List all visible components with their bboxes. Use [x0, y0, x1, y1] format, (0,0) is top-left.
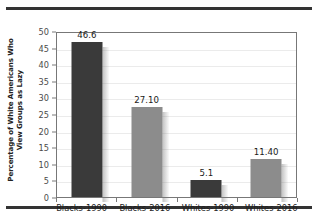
x-axis-tick-mark — [56, 198, 57, 202]
bar-group: 46.6 — [57, 33, 117, 197]
bar-group: 27.10 — [117, 33, 177, 197]
y-axis-tick-label: 35 — [39, 77, 49, 87]
y-axis-title: Percentage of White Americans Who View G… — [2, 26, 28, 194]
x-axis-tick-label: Whites-1990 — [177, 203, 240, 213]
x-axis-tick-label: Whites-2016 — [240, 203, 303, 213]
y-axis-tick-label: 10 — [39, 160, 49, 170]
y-axis-tick-label: 20 — [39, 127, 49, 137]
bar-value-label: 5.1 — [200, 168, 214, 178]
x-axis-tick-label: Blacks-1990 — [50, 203, 113, 213]
x-axis-tick-labels: Blacks-1990Blacks-2016Whites-1990Whites-… — [50, 203, 303, 213]
bar[interactable] — [251, 159, 282, 197]
x-axis-tick-mark — [116, 198, 117, 202]
y-axis-tick-label: 25 — [39, 110, 49, 120]
y-axis-title-line-1: Percentage of White Americans Who — [6, 25, 15, 195]
x-axis-tick-label: Blacks-2016 — [113, 203, 176, 213]
y-axis-title-line-2: View Groups as Lazy — [15, 25, 24, 195]
bar-value-label: 27.10 — [134, 95, 159, 105]
y-axis-tick-label: 0 — [44, 193, 49, 203]
y-axis-tick-label: 15 — [39, 143, 49, 153]
y-axis-tick-label: 50 — [39, 27, 49, 37]
bar-series: 46.627.105.111.40 — [57, 33, 296, 197]
bar-value-label: 46.6 — [77, 30, 96, 40]
x-axis-tick-mark — [297, 198, 298, 202]
bar-group: 5.1 — [177, 33, 237, 197]
y-axis-tick-label: 5 — [44, 176, 49, 186]
x-axis-tick-mark — [237, 198, 238, 202]
y-axis-tick-label: 30 — [39, 93, 49, 103]
bar-chart: Percentage of White Americans Who View G… — [0, 12, 318, 204]
plot-area: 46.627.105.111.40 — [56, 32, 297, 198]
bar-value-label: 11.40 — [254, 147, 279, 157]
bar-group: 11.40 — [236, 33, 296, 197]
bar[interactable] — [131, 107, 162, 197]
y-axis-tick-label: 45 — [39, 44, 49, 54]
y-axis-tick-labels: 50454035302520151050 — [30, 26, 52, 198]
top-divider-rule — [6, 7, 312, 10]
x-axis-tick-mark — [177, 198, 178, 202]
bar[interactable] — [191, 180, 222, 197]
bar[interactable] — [71, 42, 102, 197]
y-axis-tick-label: 40 — [39, 60, 49, 70]
